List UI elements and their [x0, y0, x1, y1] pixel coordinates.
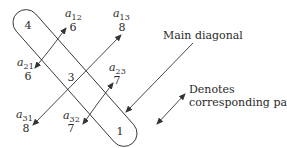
pairs-label-line1: Denotes: [189, 83, 235, 96]
pairs-label-line2: corresponding pairs: [189, 96, 287, 109]
a23-value: 7: [114, 74, 121, 87]
a21-value: 6: [25, 70, 32, 83]
pair-arrow-a21-a12: [35, 48, 51, 68]
a12-value: 6: [70, 21, 77, 34]
symmetric-matrix-diagram: 4 3 1 a12 6 a13 8 a21 6 a23 7 a31 8 a32 …: [0, 0, 287, 148]
a31-value: 8: [23, 122, 30, 135]
pair-arrow-a23-a32: [98, 83, 113, 103]
a31-symbol: a31: [16, 108, 33, 123]
a12-symbol: a12: [65, 7, 82, 22]
a13-value: 8: [119, 21, 126, 34]
a32-value: 7: [68, 122, 75, 135]
diag-a33-value: 1: [117, 125, 124, 138]
main-diagonal-pointer-arrow: [126, 43, 193, 112]
diag-a22-value: 3: [68, 71, 75, 84]
main-diagonal-label: Main diagonal: [163, 29, 243, 42]
diag-a11-value: 4: [25, 19, 32, 32]
legend-pair-arrow-up: [171, 94, 185, 109]
a13-symbol: a13: [113, 7, 130, 22]
a21-symbol: a21: [17, 56, 34, 71]
legend-pair-arrow-down: [157, 109, 171, 124]
